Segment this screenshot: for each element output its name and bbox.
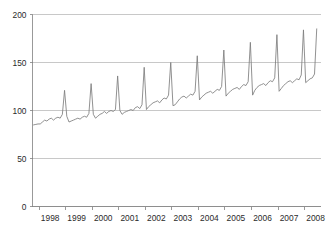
x-tick-label: 2001 [120,213,139,223]
y-tick-label: 100 [13,106,27,116]
y-tick-label: 50 [17,154,27,164]
x-tick-label: 2008 [306,213,325,223]
x-tick-label: 2002 [147,213,166,223]
x-tick-label: 2003 [174,213,193,223]
line-chart: 050100150200 199819992000200120022003200… [0,0,328,227]
x-tick-label: 2005 [227,213,246,223]
chart-container: 050100150200 199819992000200120022003200… [0,0,328,227]
x-tick-label: 2007 [280,213,299,223]
chart-background [0,0,328,227]
y-tick-label: 200 [13,10,27,20]
x-tick-label: 2000 [94,213,113,223]
x-tick-label: 2004 [200,213,219,223]
y-tick-label: 0 [22,202,27,212]
x-tick-label: 1999 [67,213,86,223]
y-tick-label: 150 [13,58,27,68]
x-tick-label: 2006 [253,213,272,223]
x-tick-label: 1998 [41,213,60,223]
